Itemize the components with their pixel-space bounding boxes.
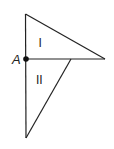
point-a-dot [23, 56, 29, 62]
triangle-i-hypotenuse [26, 14, 106, 59]
geometry-diagram: A I II [0, 0, 114, 149]
region-ii-label: II [36, 73, 43, 87]
triangle-ii-hypotenuse [26, 59, 71, 138]
vertical-side [26, 14, 27, 138]
point-a-label: A [11, 52, 21, 67]
region-i-label: I [39, 36, 42, 50]
